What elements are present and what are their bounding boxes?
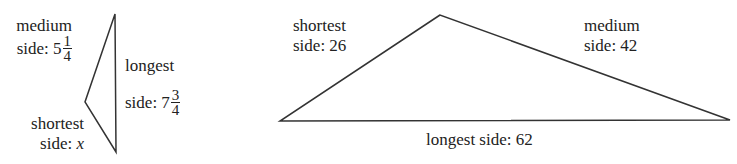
whole: 5 — [53, 39, 62, 58]
left-longest-side-label: longest side: 734 — [125, 56, 180, 119]
left-shortest-side-label: shortest side: x — [14, 114, 84, 154]
label-text: shortest — [293, 16, 346, 36]
label-text: medium — [584, 16, 640, 36]
shortest-side-value: side: x — [14, 134, 84, 154]
right-longest-side-label: longest side: 62 — [426, 130, 533, 150]
fraction: 14 — [63, 34, 73, 63]
prefix: side: — [125, 93, 161, 112]
numerator: 1 — [63, 34, 73, 49]
denominator: 4 — [171, 103, 181, 117]
right-shortest-side-label: shortest side: 26 — [293, 16, 346, 56]
label-text: shortest — [14, 114, 84, 134]
right-medium-side-label: medium side: 42 — [584, 16, 640, 56]
left-triangle — [85, 14, 116, 152]
whole: 7 — [161, 93, 170, 112]
left-medium-side-label: medium side: 514 — [14, 16, 72, 65]
prefix: side: — [40, 134, 76, 153]
value-text: longest side: 62 — [426, 130, 533, 150]
label-text: longest — [125, 56, 180, 76]
variable: x — [76, 134, 84, 153]
longest-side-value: side: 734 — [125, 90, 180, 119]
right-triangle — [280, 15, 730, 121]
value-text: side: 26 — [293, 36, 346, 56]
medium-side-value: side: 514 — [14, 36, 72, 65]
prefix: side: — [17, 39, 53, 58]
denominator: 4 — [63, 49, 73, 63]
fraction: 34 — [171, 88, 181, 117]
value-text: side: 42 — [584, 36, 640, 56]
numerator: 3 — [171, 88, 181, 103]
